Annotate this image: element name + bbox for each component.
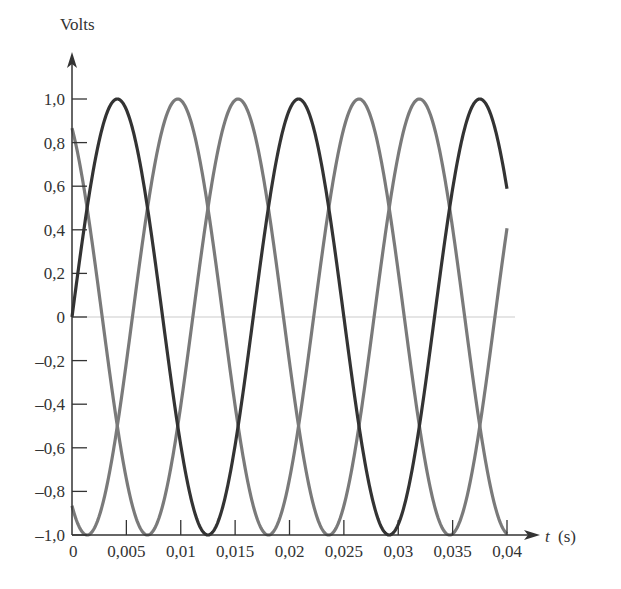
x-tick-label: 0,035 (434, 542, 472, 561)
y-tick-label: –0,4 (34, 395, 65, 414)
y-tick-label: –1,0 (34, 526, 65, 545)
x-axis-unit: (s) (558, 527, 576, 546)
x-tick-label: 0,01 (166, 542, 196, 561)
y-tick-label: 0,6 (44, 177, 65, 196)
x-axis-title: t (s) (545, 527, 576, 546)
x-axis-variable: t (545, 527, 551, 546)
y-axis: 1,00,80,60,40,20–0,2–0,4–0,6–0,8–1,0 (34, 52, 87, 545)
y-tick-label: 0,2 (44, 264, 65, 283)
y-axis-title: Volts (60, 15, 95, 34)
x-tick-label: 0,03 (383, 542, 413, 561)
y-tick-label: 0,8 (44, 134, 65, 153)
y-tick-label: –0,2 (34, 352, 65, 371)
y-tick-label: 0,4 (44, 221, 66, 240)
x-tick-label: 0,025 (325, 542, 363, 561)
x-tick-label: 0 (69, 542, 78, 561)
three-phase-voltage-chart: Volts 1,00,80,60,40,20–0,2–0,4–0,6–0,8–1… (0, 0, 621, 589)
x-tick-label: 0,04 (492, 542, 522, 561)
y-tick-label: 1,0 (44, 90, 65, 109)
x-tick-label: 0,005 (107, 542, 145, 561)
y-tick-label: –0,8 (34, 482, 65, 501)
x-tick-label: 0,02 (275, 542, 305, 561)
y-tick-label: 0 (57, 308, 66, 327)
x-tick-label: 0,015 (216, 542, 254, 561)
y-tick-label: –0,6 (34, 439, 65, 458)
